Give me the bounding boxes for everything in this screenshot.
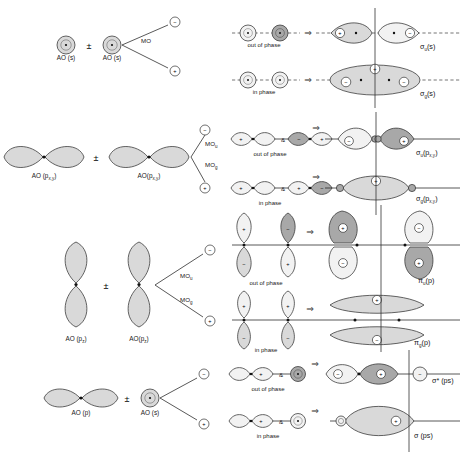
pi-u-sign-br-glyph: + <box>417 260 420 266</box>
result-label-sigma-ps: σ (ps) <box>414 431 433 440</box>
ao-label-right: AO (s) <box>103 54 121 62</box>
p-sign-e2: + <box>259 371 262 377</box>
ao-pxy-left-lobe-b <box>45 147 84 168</box>
ao-p-lobe-b <box>82 389 118 407</box>
pz-sign-b-top: − <box>286 226 289 232</box>
row3-in-phase: + − + − in phase ⇒ + − πg(p) <box>232 291 460 353</box>
phase-label-in-2: in phase <box>259 200 282 206</box>
sigma-g-sign-right-glyph: − <box>402 79 405 85</box>
row4-out-of-phase: + & out of phase ⇒ − + − σ* (ps) <box>229 359 460 392</box>
sign-minus-glyph-3: − <box>208 247 211 253</box>
row2-in-phase: + & + − in phase ⇒ + σg(px,y) <box>231 172 460 206</box>
result-label-sigma-u-s: σu(s) <box>420 42 435 52</box>
pi-u-sign-tr-glyph: − <box>417 225 420 231</box>
ao-pz-right-lobe-top <box>128 242 150 283</box>
row-pxy-pxy: AO (px,y) ± AO(px,y) MOu MOg − + + & <box>4 123 460 206</box>
ao-label-left: AO (s) <box>57 54 75 62</box>
phase-label-out-4: out of phase <box>251 386 285 392</box>
ampersand-row2b: & <box>281 185 286 192</box>
mo-u-branch-label: MOu <box>205 140 218 149</box>
sigma-star-sign-right-glyph: + <box>379 371 382 377</box>
nucleus-left-1 <box>355 32 357 34</box>
implies-arrow-4: ⇒ <box>312 172 320 182</box>
sign-minus-glyph-4: − <box>202 371 205 377</box>
p-sign-b1: − <box>297 136 300 142</box>
phase-label-out-3: out of phase <box>249 280 283 286</box>
result-label-sigma-g-s: σg(s) <box>420 89 435 99</box>
result-label-sigma-star-ps: σ* (ps) <box>432 376 454 385</box>
ao-p-nucleus <box>79 396 82 399</box>
mo-g-branch-label-3: MOg <box>180 296 193 305</box>
pz-nucleus-d <box>287 319 290 322</box>
operator-plus-minus-3: ± <box>104 281 109 291</box>
nucleus-left-3 <box>356 244 359 247</box>
implies-arrow-7: ⇒ <box>311 359 319 369</box>
p-nucleus-c <box>252 187 255 190</box>
nucleus-right-2 <box>388 79 390 81</box>
branch-line-lower <box>122 45 168 68</box>
branch-line-upper-4 <box>160 378 197 398</box>
sigma-u-sign-right-glyph: − <box>408 30 411 36</box>
pz-sign-a-bottom: − <box>242 261 245 267</box>
pz-sign-a-top: + <box>242 226 245 232</box>
s-nucleus-row4b <box>297 420 299 422</box>
ao-pxy-left-nucleus <box>42 155 45 158</box>
sigma-u-pxy-sign-left-glyph: − <box>347 138 350 144</box>
p-sign-a1: + <box>239 136 242 142</box>
result-label-pi-g: πg(p) <box>414 338 430 348</box>
mo-g-branch-label: MOg <box>205 161 218 170</box>
sigma-u-pxy-lobe-right <box>380 128 414 149</box>
sign-plus-glyph-3: + <box>208 318 211 324</box>
sigma-u-pxy-sign-right-glyph: + <box>402 138 405 144</box>
ao-pxy-right-lobe-b <box>150 147 189 168</box>
sigma-merged-lobe <box>345 406 414 435</box>
result-label-sigma-u-pxy: σu(px,y) <box>416 148 438 158</box>
ao-pxy-right-lobe-a <box>109 147 148 168</box>
ao-p-lobe-a <box>44 389 80 407</box>
p-lobe-f1 <box>229 415 250 428</box>
phase-label-in-3: in phase <box>255 347 278 353</box>
p-nucleus-d <box>309 187 312 190</box>
pz-sign-d-bottom: − <box>286 335 289 341</box>
nucleus-right-4 <box>398 319 401 322</box>
result-label-sigma-g-pxy: σg(px,y) <box>416 194 438 204</box>
ao-label-s-row4: AO (s) <box>141 409 159 417</box>
pz-nucleus-a <box>243 244 246 247</box>
sigma-small-node <box>336 416 346 426</box>
ao-s-right-nucleus <box>111 44 113 46</box>
row1-left-group: AO (s) ± AO (s) MO − + <box>57 17 180 76</box>
nucleus-left-4 <box>354 319 357 322</box>
row2-left-group: AO (px,y) ± AO(px,y) MOu MOg − + <box>4 125 218 193</box>
row4-left-group: AO (p) ± AO (s) − + <box>44 369 209 429</box>
row-pz-pz: AO (pz) ± AO(pz) MOu MOg − + + − <box>65 211 460 353</box>
p-sign-f2: + <box>259 418 262 424</box>
ao-label-pz-left: AO (pz) <box>65 335 86 344</box>
operator-plus-minus-2: ± <box>94 153 99 163</box>
ao-pz-left-lobe-top <box>65 242 87 283</box>
branch-line-upper-2 <box>191 135 205 157</box>
ao-pz-right-lobe-bottom <box>128 286 150 327</box>
phase-label-in-4: in phase <box>257 433 280 439</box>
row4-in-phase: + & in phase ⇒ + σ (ps) <box>229 406 460 440</box>
operator-plus-minus: ± <box>87 41 92 51</box>
row3-out-of-phase: + − − + out of phase ⇒ + − − + πu(p) <box>232 211 460 286</box>
row1-in-phase: in phase ⇒ − − + σg(s) <box>232 64 460 99</box>
ao-pz-left-nucleus <box>74 283 77 286</box>
s-nucleus-c <box>247 79 249 81</box>
pi-g-sign-top-glyph: + <box>375 297 378 303</box>
pi-g-sign-bottom-glyph: − <box>375 337 378 343</box>
sign-plus-glyph-4: + <box>202 421 205 427</box>
implies-arrow-5: ⇒ <box>306 227 314 237</box>
phase-label-out: out of phase <box>247 42 281 48</box>
ao-label-pxy-right: AO(px,y) <box>138 172 161 181</box>
pz-nucleus-c <box>243 319 246 322</box>
small-node-right-row2b <box>408 184 415 191</box>
p-lobe-a2 <box>254 133 275 146</box>
mo-branch-label: MO <box>141 37 151 44</box>
branch-line-lower-3 <box>155 285 203 317</box>
s-nucleus-row4a <box>297 373 299 375</box>
p-sign-d1: + <box>297 185 300 191</box>
row1-out-of-phase: out of phase ⇒ + − σu(s) <box>232 23 460 52</box>
nucleus-right-1 <box>393 32 395 34</box>
row-s-s: AO (s) ± AO (s) MO − + out of phase ⇒ <box>57 17 460 99</box>
